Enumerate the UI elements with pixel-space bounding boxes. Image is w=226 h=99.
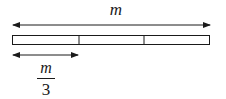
whole-label: m [104,0,128,20]
fraction-denominator: 3 [34,81,58,99]
tape-bar [13,36,210,45]
fraction-numerator: m [34,60,58,76]
fraction-bar [37,78,55,79]
part-fraction-label: m 3 [34,60,58,99]
